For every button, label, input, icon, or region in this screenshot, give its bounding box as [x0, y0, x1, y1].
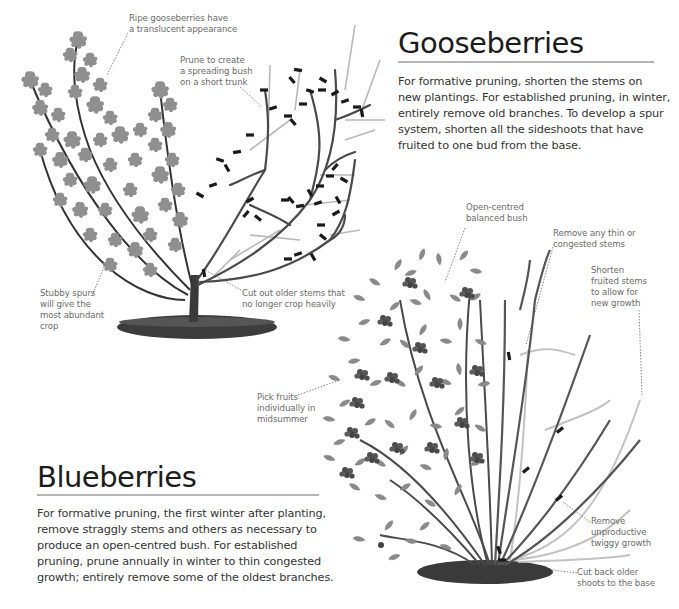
callout-line: crop	[40, 321, 104, 332]
callout-line: will give the	[40, 299, 104, 310]
callout-line: new growth	[591, 298, 647, 309]
callout-remove-twiggy-growth: Remove unproductive twiggy growth	[591, 516, 651, 549]
callout-ripe-gooseberries: Ripe gooseberries have a translucent app…	[129, 13, 237, 35]
callout-line: Prune to create	[180, 55, 253, 66]
gooseberries-body-line: new plantings. For established pruning, …	[398, 90, 670, 106]
callout-line: no longer crop heavily	[242, 299, 345, 310]
callout-open-centred-bush: Open-centred balanced bush	[466, 202, 528, 224]
callout-line: Stubby spurs	[40, 288, 104, 299]
blueberries-title: Blueberries	[37, 460, 196, 494]
callout-line: Pick fruits	[257, 392, 315, 403]
callout-line: a spreading bush	[180, 66, 253, 77]
callout-line: congested stems	[553, 239, 636, 250]
gooseberries-title-rule	[398, 61, 654, 63]
callout-line: most abundant	[40, 310, 104, 321]
callout-line: twiggy growth	[591, 538, 651, 549]
callout-line: shoots to the base	[577, 578, 655, 589]
gooseberries-title: Gooseberries	[398, 26, 584, 60]
blueberries-body-line: growth; entirely remove some of the olde…	[37, 570, 334, 586]
gooseberries-body-line: For formative pruning, shorten the stems…	[398, 74, 670, 90]
callout-line: Ripe gooseberries have	[129, 13, 237, 24]
callout-line: individually in	[257, 403, 315, 414]
callout-line: midsummer	[257, 414, 315, 425]
blueberries-body: For formative pruning, the first winter …	[37, 506, 334, 586]
blueberries-body-line: remove straggly stems and others as nece…	[37, 522, 334, 538]
callout-shorten-fruited-stems: Shorten fruited stems to allow for new g…	[591, 265, 647, 309]
callout-line: balanced bush	[466, 213, 528, 224]
blueberries-body-line: For formative pruning, the first winter …	[37, 506, 334, 522]
callout-line: to allow for	[591, 287, 647, 298]
callout-line: fruited stems	[591, 276, 647, 287]
blueberries-body-line: produce an open-centred bush. For establ…	[37, 538, 334, 554]
callout-line: Remove any thin or	[553, 228, 636, 239]
callout-cut-back-older-shoots: Cut back older shoots to the base	[577, 567, 655, 589]
callout-stubby-spurs: Stubby spurs will give the most abundant…	[40, 288, 104, 332]
gooseberries-body-line: fruited to one bud from the base.	[398, 138, 670, 154]
callout-line: a translucent appearance	[129, 24, 237, 35]
callout-line: Cut out older stems that	[242, 288, 345, 299]
callout-cut-out-older-stems: Cut out older stems that no longer crop …	[242, 288, 345, 310]
blueberries-body-line: pruning, prune annually in winter to thi…	[37, 554, 334, 570]
gooseberries-body-line: entirely remove old branches. To develop…	[398, 106, 670, 122]
gooseberries-body: For formative pruning, shorten the stems…	[398, 74, 670, 154]
callout-pick-fruits: Pick fruits individually in midsummer	[257, 392, 315, 425]
callout-line: Cut back older	[577, 567, 655, 578]
blueberries-title-rule	[37, 494, 319, 496]
callout-line: Open-centred	[466, 202, 528, 213]
callout-prune-spreading-bush: Prune to create a spreading bush on a sh…	[180, 55, 253, 88]
gooseberries-body-line: system, shorten all the sideshoots that …	[398, 122, 670, 138]
callout-line: unproductive	[591, 527, 651, 538]
callout-remove-thin-stems: Remove any thin or congested stems	[553, 228, 636, 250]
callout-line: Remove	[591, 516, 651, 527]
callout-line: on a short trunk	[180, 77, 253, 88]
callout-line: Shorten	[591, 265, 647, 276]
